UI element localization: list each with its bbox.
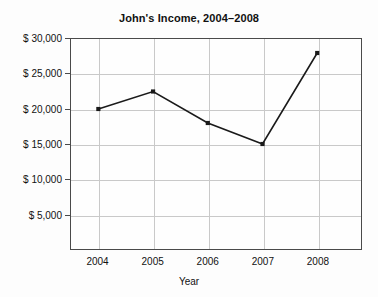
income-line-chart: John's Income, 2004–2008 $ 5,000$ 10,000… [0, 0, 378, 297]
data-point-marker [315, 51, 319, 55]
y-axis-tick-label: $ 30,000 [2, 33, 62, 44]
data-point-marker [260, 142, 264, 146]
x-axis-title: Year [0, 276, 378, 287]
y-axis-tick-label: $ 5,000 [2, 209, 62, 220]
chart-title: John's Income, 2004–2008 [0, 12, 378, 24]
y-axis-tick-label: $ 15,000 [2, 139, 62, 150]
data-point-marker [151, 89, 155, 93]
x-axis-tick-label: 2004 [86, 256, 108, 267]
x-axis-tick-label: 2007 [252, 256, 274, 267]
y-axis-tick-label: $ 25,000 [2, 68, 62, 79]
plot-area [70, 38, 362, 250]
data-series-layer [71, 39, 361, 249]
series-line-john-income [98, 53, 317, 144]
x-axis-tick-label: 2005 [142, 256, 164, 267]
x-axis-tick-label: 2006 [197, 256, 219, 267]
data-point-marker [206, 121, 210, 125]
x-axis-tick-label: 2008 [307, 256, 329, 267]
data-point-marker [96, 107, 100, 111]
y-axis-tick-label: $ 10,000 [2, 174, 62, 185]
y-axis-tick-label: $ 20,000 [2, 103, 62, 114]
